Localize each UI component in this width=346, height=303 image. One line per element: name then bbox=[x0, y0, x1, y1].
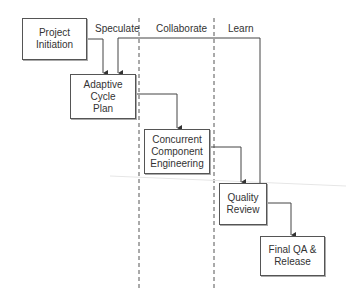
phase-label-collaborate: Collaborate bbox=[156, 23, 207, 34]
node-label: Project Initiation bbox=[36, 27, 73, 51]
phase-label-speculate: Speculate bbox=[95, 23, 139, 34]
node-project-initiation: Project Initiation bbox=[22, 18, 87, 60]
phase-label-learn: Learn bbox=[228, 23, 254, 34]
edge-review-to-final bbox=[267, 203, 291, 235]
edge-initiation-to-adaptive bbox=[87, 39, 103, 73]
node-label: Adaptive Cycle Plan bbox=[84, 79, 123, 115]
edge-adaptive-to-concurrent bbox=[136, 94, 177, 128]
node-label: Concurrent Component Engineering bbox=[150, 134, 203, 170]
node-quality-review: Quality Review bbox=[219, 183, 267, 225]
node-adaptive-cycle-plan: Adaptive Cycle Plan bbox=[70, 74, 136, 119]
node-final-qa-release: Final QA & Release bbox=[260, 236, 325, 276]
node-label: Final QA & Release bbox=[269, 244, 317, 268]
node-label: Quality Review bbox=[227, 192, 260, 216]
node-concurrent-component-engineering: Concurrent Component Engineering bbox=[144, 129, 210, 174]
edge-concurrent-to-review bbox=[210, 147, 241, 182]
